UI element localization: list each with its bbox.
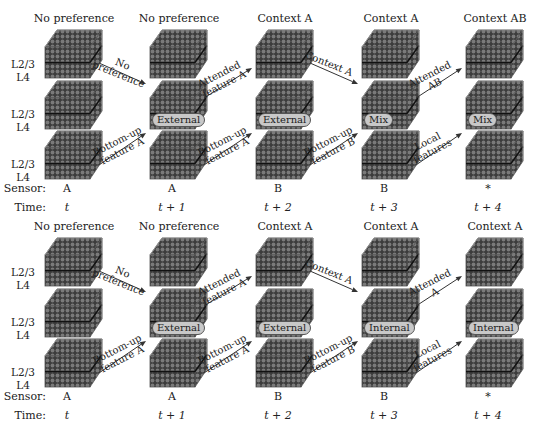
time-value: t + 3 <box>364 201 404 214</box>
time-value: t + 1 <box>152 201 192 214</box>
time-label: Time: <box>0 201 46 214</box>
layer-label-l23: L2/3 <box>8 366 38 378</box>
column-title: Context A <box>341 220 441 233</box>
time-value: t + 2 <box>258 201 298 214</box>
time-value: t + 1 <box>152 409 192 422</box>
time-value: t + 2 <box>258 409 298 422</box>
layer-label-l23: L2/3 <box>8 108 38 120</box>
layer-label-l23: L2/3 <box>8 316 38 328</box>
state-badge: External <box>152 113 205 127</box>
column-title: No preference <box>24 12 124 25</box>
time-value: t <box>47 409 87 422</box>
sensor-value: B <box>258 182 298 195</box>
time-value: t + 4 <box>468 201 508 214</box>
cortical-block <box>466 338 524 388</box>
time-value: t <box>47 201 87 214</box>
column-title: Context AB <box>445 12 536 25</box>
sensor-value: * <box>468 390 508 403</box>
state-badge: External <box>152 321 205 335</box>
layer-label-l4: L4 <box>8 121 38 133</box>
sensor-value: B <box>258 390 298 403</box>
column-title: No preference <box>129 220 229 233</box>
cortical-block <box>466 130 524 180</box>
layer-label-l4: L4 <box>8 279 38 291</box>
layer-label-l4: L4 <box>8 329 38 341</box>
column-title: Context A <box>341 12 441 25</box>
sensor-value: A <box>47 182 87 195</box>
column-title: No preference <box>24 220 124 233</box>
state-badge: Mix <box>468 113 497 127</box>
time-value: t + 4 <box>468 409 508 422</box>
layer-label-l23: L2/3 <box>8 158 38 170</box>
column-title: Context A <box>445 220 536 233</box>
column-title: No preference <box>129 12 229 25</box>
time-label: Time: <box>0 409 46 422</box>
sensor-value: A <box>47 390 87 403</box>
state-badge: Internal <box>468 321 519 335</box>
cortical-block <box>466 29 524 79</box>
state-badge: External <box>258 321 311 335</box>
layer-label-l23: L2/3 <box>8 266 38 278</box>
column-title: Context A <box>235 220 335 233</box>
sensor-value: A <box>152 182 192 195</box>
sensor-value: B <box>364 390 404 403</box>
sensor-value: B <box>364 182 404 195</box>
layer-label-l4: L4 <box>8 71 38 83</box>
sensor-value: A <box>152 390 192 403</box>
state-badge: Internal <box>364 321 415 335</box>
column-title: Context A <box>235 12 335 25</box>
sensor-label: Sensor: <box>0 390 46 403</box>
sensor-value: * <box>468 182 508 195</box>
state-badge: Mix <box>364 113 393 127</box>
cortical-block <box>466 237 524 287</box>
state-badge: External <box>258 113 311 127</box>
sensor-label: Sensor: <box>0 182 46 195</box>
layer-label-l23: L2/3 <box>8 58 38 70</box>
time-value: t + 3 <box>364 409 404 422</box>
